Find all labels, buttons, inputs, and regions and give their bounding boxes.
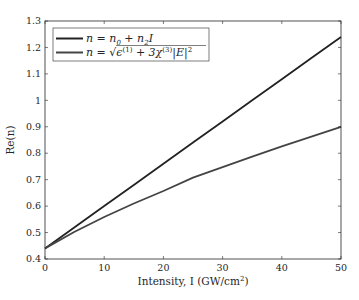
legend: n = n0 + n2I n = √ϵ(1) + 3χ(3)|E|2 [53,28,209,61]
x-tick-label: 40 [276,262,288,273]
y-axis-label: Re(n) [4,125,16,154]
legend-label-sqrt: n = √ϵ(1) + 3χ(3)|E|2 [86,46,192,60]
x-tick-label: 20 [157,262,169,273]
y-tick-label: 0.8 [26,147,41,158]
x-tick-label: 0 [42,262,48,273]
line-chart: 010203040500.40.50.60.70.80.911.11.21.3 … [0,0,359,300]
y-tick-label: 0.7 [26,174,41,185]
x-tick-label: 30 [217,262,229,273]
y-tick-label: 0.5 [26,227,41,238]
y-tick-label: 1 [35,95,41,106]
y-tick-label: 0.6 [26,200,41,211]
x-tick-label: 10 [98,262,110,273]
y-tick-label: 0.9 [26,121,41,132]
y-tick-label: 1.1 [26,68,41,79]
y-tick-label: 1.2 [26,42,41,53]
x-axis-label: Intensity, I (GW/cm2) [138,275,249,287]
y-tick-label: 0.4 [26,253,41,264]
x-tick-label: 50 [335,262,347,273]
y-tick-label: 1.3 [26,15,41,26]
